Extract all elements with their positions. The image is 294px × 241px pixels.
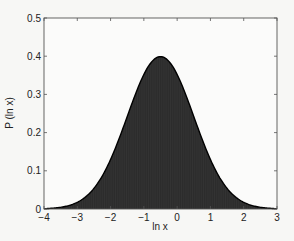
x-tick-label: 1 bbox=[208, 212, 214, 223]
x-tick-label: 0 bbox=[174, 212, 180, 223]
y-tick-label: 0.3 bbox=[27, 89, 41, 100]
y-tick-label: 0.5 bbox=[27, 13, 41, 24]
y-tick-label: 0.1 bbox=[27, 165, 41, 176]
x-tick-label: 3 bbox=[274, 212, 280, 223]
x-axis-label: ln x bbox=[152, 221, 168, 232]
lognormal-density-chart: 00.10.20.30.40.5 −4−3−2−10123 ln x P (ln… bbox=[0, 0, 294, 241]
x-tick-label: 2 bbox=[241, 212, 247, 223]
y-tick-label: 0.4 bbox=[27, 51, 41, 62]
y-tick-label: 0.2 bbox=[27, 127, 41, 138]
y-axis-label: P (ln x) bbox=[4, 97, 15, 129]
x-tick-label: −1 bbox=[138, 212, 150, 223]
plot-area bbox=[44, 18, 277, 209]
x-tick-label: −4 bbox=[38, 212, 50, 223]
x-tick-label: −3 bbox=[72, 212, 84, 223]
x-tick-label: −2 bbox=[105, 212, 117, 223]
